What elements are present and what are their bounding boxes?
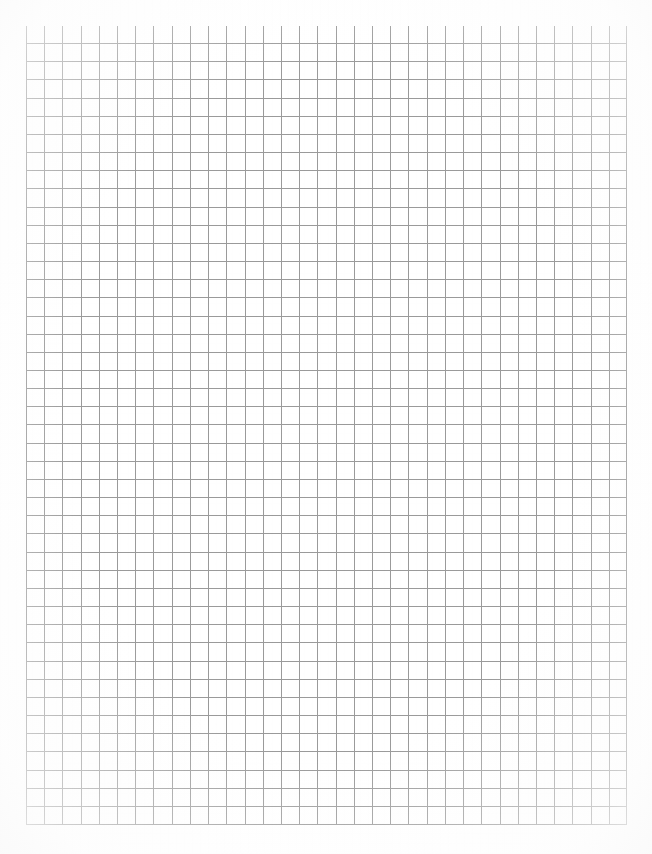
graph-paper-page [0, 0, 652, 854]
quad-ruled-grid [26, 26, 627, 825]
